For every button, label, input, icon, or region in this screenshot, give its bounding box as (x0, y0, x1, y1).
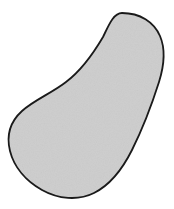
bean-shape-svg (0, 0, 174, 209)
figure-canvas (0, 0, 174, 209)
